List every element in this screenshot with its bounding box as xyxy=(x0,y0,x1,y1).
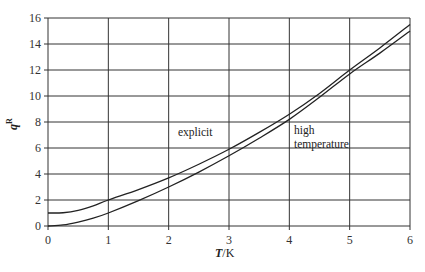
annotation-explicit: explicit xyxy=(178,126,213,139)
y-tick-label: 10 xyxy=(29,89,41,103)
x-tick-label: 2 xyxy=(166,233,172,247)
x-tick-label: 4 xyxy=(286,233,292,247)
x-axis-label: T/K xyxy=(215,246,235,260)
annotation-temperature: temperature xyxy=(294,138,349,151)
x-axis-label-unit: /K xyxy=(222,246,234,260)
y-tick-label: 6 xyxy=(35,141,41,155)
chart: 0246810121416 0123456 explicit high temp… xyxy=(0,0,425,272)
annotation-high: high xyxy=(294,124,315,137)
y-tick-label: 16 xyxy=(29,11,41,25)
grid-lines xyxy=(44,18,410,230)
y-tick-label: 0 xyxy=(35,219,41,233)
y-tick-label: 4 xyxy=(35,167,41,181)
y-axis-label-sup: R xyxy=(5,118,14,124)
y-tick-label: 8 xyxy=(35,115,41,129)
y-tick-label: 2 xyxy=(35,193,41,207)
y-axis-label: qR xyxy=(5,118,20,130)
y-axis-ticks: 0246810121416 xyxy=(29,11,41,233)
x-tick-label: 0 xyxy=(45,233,51,247)
y-tick-label: 12 xyxy=(29,63,41,77)
x-axis-ticks: 0123456 xyxy=(45,233,413,247)
y-tick-label: 14 xyxy=(29,37,41,51)
x-tick-label: 1 xyxy=(105,233,111,247)
svg-text:qR: qR xyxy=(5,118,20,130)
x-tick-label: 6 xyxy=(407,233,413,247)
x-tick-label: 3 xyxy=(226,233,232,247)
x-tick-label: 5 xyxy=(347,233,353,247)
